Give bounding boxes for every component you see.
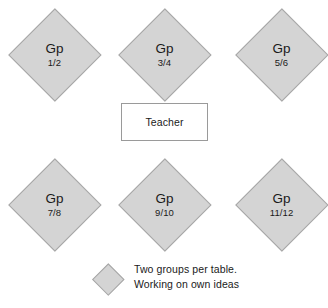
legend-line-2: Working on own ideas xyxy=(134,277,319,292)
diagram-canvas: Gp 1/2 Gp 3/4 Gp 5/6 Teacher Gp 7/8 Gp 9… xyxy=(0,0,328,308)
group-node-4[interactable]: Gp 7/8 xyxy=(8,158,101,251)
legend-line-1: Two groups per table. xyxy=(134,262,319,277)
legend-text: Two groups per table. Working on own ide… xyxy=(134,262,319,292)
diamond-icon xyxy=(118,8,211,101)
group-node-6[interactable]: Gp 11/12 xyxy=(235,158,328,251)
group-node-5[interactable]: Gp 9/10 xyxy=(118,158,211,251)
diamond-icon xyxy=(118,158,211,251)
diamond-icon xyxy=(8,158,101,251)
legend: Two groups per table. Working on own ide… xyxy=(92,263,322,303)
diamond-icon xyxy=(235,158,328,251)
diamond-icon xyxy=(235,8,328,101)
legend-swatch xyxy=(92,263,124,295)
group-node-2[interactable]: Gp 3/4 xyxy=(118,8,211,101)
group-node-3[interactable]: Gp 5/6 xyxy=(235,8,328,101)
teacher-box[interactable]: Teacher xyxy=(121,103,208,141)
diamond-icon xyxy=(8,8,101,101)
diamond-icon xyxy=(92,263,124,295)
group-node-1[interactable]: Gp 1/2 xyxy=(8,8,101,101)
teacher-label: Teacher xyxy=(145,116,183,128)
